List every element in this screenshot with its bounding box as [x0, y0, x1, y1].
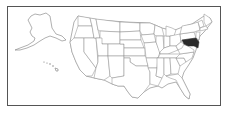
state-north-dakota: [120, 22, 140, 32]
state-washington: [78, 16, 92, 26]
state-maine: [204, 14, 212, 26]
alaska-inset: [15, 13, 66, 50]
state-oregon: [74, 26, 94, 38]
state-wyoming: [100, 31, 120, 44]
state-colorado: [108, 44, 124, 56]
state-wisconsin: [154, 25, 164, 36]
state-minnesota: [140, 23, 155, 35]
state-arkansas: [146, 58, 158, 68]
contiguous-us: [70, 14, 212, 99]
state-south-dakota: [120, 31, 141, 40]
state-michigan: [166, 26, 176, 36]
state-montana: [96, 19, 120, 32]
state-mississippi: [156, 58, 164, 78]
state-kansas: [124, 48, 145, 56]
state-florida: [166, 74, 190, 99]
hawaii-inset: [43, 61, 58, 71]
state-new-mexico: [108, 56, 124, 78]
state-iowa: [141, 34, 156, 43]
us-map: [0, 0, 228, 118]
